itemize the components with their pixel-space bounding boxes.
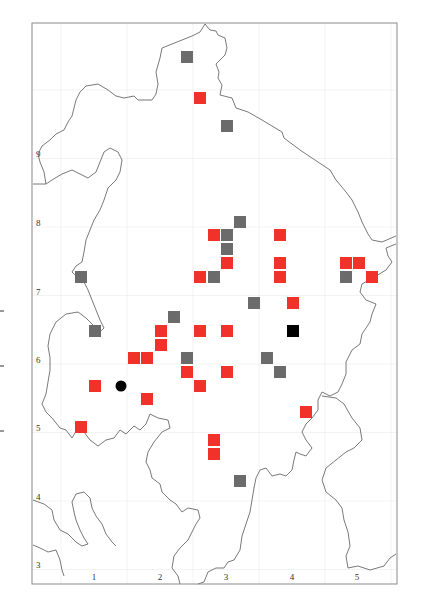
red-square-marker — [300, 406, 312, 418]
red-square-marker — [353, 257, 365, 269]
red-square-marker — [141, 393, 153, 405]
y-tick-label: 5 — [36, 423, 41, 433]
red-square-marker — [141, 352, 153, 364]
red-square-marker — [194, 380, 206, 392]
red-square-marker — [181, 366, 193, 378]
red-square-marker — [221, 366, 233, 378]
red-square-marker — [155, 325, 167, 337]
gray-square-marker — [221, 229, 233, 241]
gray-square-marker — [181, 352, 193, 364]
red-square-marker — [274, 271, 286, 283]
red-square-marker — [274, 257, 286, 269]
coastline — [33, 24, 396, 584]
red-square-marker — [287, 297, 299, 309]
gray-square-marker — [274, 366, 286, 378]
black-square-marker — [287, 325, 299, 337]
y-tick-label: 3 — [36, 560, 41, 570]
gray-square-marker — [208, 271, 220, 283]
gray-square-marker — [234, 475, 246, 487]
x-tick-label: 5 — [355, 572, 360, 582]
red-square-marker — [194, 92, 206, 104]
red-square-marker — [221, 257, 233, 269]
x-tick-label: 1 — [92, 572, 97, 582]
x-axis-labels: 12345 — [92, 572, 360, 582]
red-square-marker — [75, 421, 87, 433]
grid-lines — [32, 23, 397, 584]
y-tick-label: 9 — [36, 149, 41, 159]
red-square-marker — [274, 229, 286, 241]
gray-square-marker — [340, 271, 352, 283]
red-square-marker — [208, 448, 220, 460]
red-square-marker — [194, 271, 206, 283]
red-square-marker — [89, 380, 101, 392]
x-tick-label: 4 — [290, 572, 295, 582]
red-square-marker — [208, 434, 220, 446]
gray-square-marker — [168, 311, 180, 323]
x-tick-label: 2 — [158, 572, 163, 582]
gray-square-marker — [221, 243, 233, 255]
gray-square-marker — [221, 120, 233, 132]
y-tick-label: 4 — [36, 492, 41, 502]
x-tick-label: 3 — [224, 572, 229, 582]
distribution-map: 12345 9876543 — [0, 0, 422, 612]
red-square-marker — [340, 257, 352, 269]
gray-square-marker — [89, 325, 101, 337]
y-tick-label: 8 — [36, 218, 41, 228]
y-tick-label: 6 — [36, 355, 41, 365]
red-square-marker — [221, 325, 233, 337]
gray-square-marker — [75, 271, 87, 283]
record-markers — [75, 51, 378, 487]
gray-square-marker — [261, 352, 273, 364]
gray-square-marker — [181, 51, 193, 63]
gray-square-marker — [234, 216, 246, 228]
red-square-marker — [194, 325, 206, 337]
red-square-marker — [366, 271, 378, 283]
gray-square-marker — [248, 297, 260, 309]
black-circle-marker — [116, 381, 127, 392]
red-square-marker — [155, 339, 167, 351]
map-frame — [32, 23, 397, 584]
red-square-marker — [128, 352, 140, 364]
y-tick-label: 7 — [36, 287, 41, 297]
red-square-marker — [208, 229, 220, 241]
y-axis-labels: 9876543 — [36, 149, 41, 570]
